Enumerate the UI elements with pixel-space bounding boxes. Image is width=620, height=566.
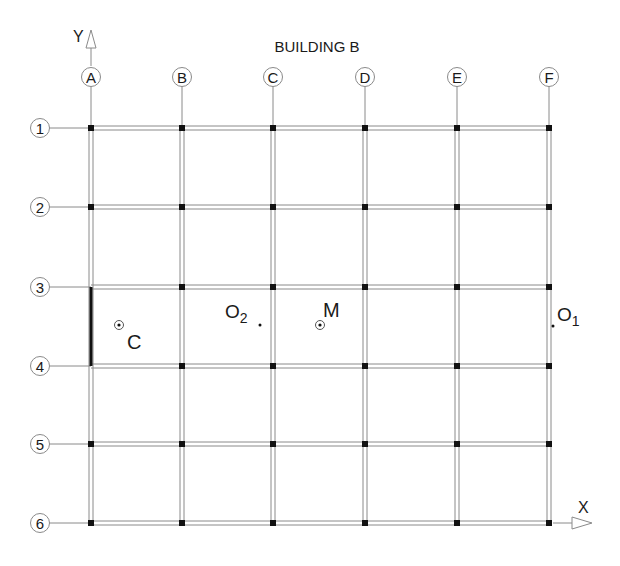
svg-text:M: M bbox=[323, 299, 340, 321]
row-bubbles: 1 2 3 4 5 6 bbox=[31, 119, 50, 533]
dot-icon bbox=[552, 325, 555, 328]
y-axis: Y bbox=[73, 28, 96, 66]
point-o1: O1 bbox=[552, 304, 580, 329]
column-bubbles: A B C D E F bbox=[82, 68, 559, 87]
svg-text:C: C bbox=[268, 69, 279, 86]
svg-text:E: E bbox=[452, 69, 462, 86]
row-bubble-3: 3 bbox=[31, 278, 50, 297]
svg-text:A: A bbox=[86, 69, 96, 86]
svg-text:F: F bbox=[544, 69, 553, 86]
svg-text:B: B bbox=[177, 69, 187, 86]
column-bubble-c: C bbox=[264, 68, 283, 87]
y-axis-label: Y bbox=[73, 28, 84, 45]
svg-text:O2: O2 bbox=[225, 301, 248, 326]
x-axis: X bbox=[553, 499, 592, 529]
building-plan: BUILDING B Y X bbox=[0, 0, 620, 566]
column-bubble-b: B bbox=[173, 68, 192, 87]
x-axis-arrow-icon bbox=[572, 517, 592, 529]
svg-text:5: 5 bbox=[36, 436, 44, 453]
point-c: C bbox=[115, 321, 142, 354]
row-gridlines bbox=[49, 126, 549, 525]
svg-text:1: 1 bbox=[36, 120, 44, 137]
y-axis-arrow-icon bbox=[86, 30, 96, 48]
x-axis-label: X bbox=[578, 499, 589, 516]
column-bubble-e: E bbox=[448, 68, 467, 87]
row-bubble-2: 2 bbox=[31, 198, 50, 217]
row-bubble-4: 4 bbox=[31, 357, 50, 376]
column-bubble-f: F bbox=[540, 68, 559, 87]
row-bubble-5: 5 bbox=[31, 435, 50, 454]
svg-text:2: 2 bbox=[36, 199, 44, 216]
point-o2: O2 bbox=[225, 301, 262, 327]
svg-text:O1: O1 bbox=[557, 304, 580, 329]
svg-text:C: C bbox=[127, 331, 141, 353]
column-bubble-a: A bbox=[82, 68, 101, 87]
point-m: M bbox=[316, 299, 340, 330]
row-bubble-6: 6 bbox=[31, 514, 50, 533]
dot-icon bbox=[259, 324, 262, 327]
svg-text:3: 3 bbox=[36, 279, 44, 296]
svg-text:6: 6 bbox=[36, 515, 44, 532]
svg-text:4: 4 bbox=[36, 358, 44, 375]
column-gridlines bbox=[89, 86, 551, 523]
column-bubble-d: D bbox=[356, 68, 375, 87]
plan-title: BUILDING B bbox=[274, 38, 359, 55]
svg-text:D: D bbox=[360, 69, 371, 86]
row-bubble-1: 1 bbox=[31, 119, 50, 138]
